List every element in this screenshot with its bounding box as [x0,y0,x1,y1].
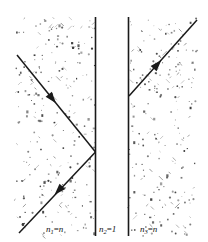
media-labels-group: n1=nn2=1n3=n [46,224,158,235]
speckle-dot [132,167,133,168]
speckle-dot [55,62,56,63]
speckle-dot [90,212,91,213]
speckle-dot [176,225,179,228]
speckle-dot [191,87,192,88]
speckle-dot [162,62,163,63]
speckle-dot [47,180,49,182]
speckle-dot [38,120,40,122]
speckle-dot [51,77,52,78]
speckle-dot [80,52,82,54]
speckle-dot [179,133,180,134]
speckle-dot [144,83,146,85]
speckle-dot [61,76,63,78]
speckle-dot [152,60,154,62]
speckle-dot [31,212,33,214]
speckle-dot [171,32,173,34]
speckle-dot [186,49,187,50]
speckle-dot [73,144,75,145]
speckle-dot [60,165,62,167]
speckle-dot [178,96,180,98]
speckle-dot [159,151,160,152]
speckle-dot [35,25,36,26]
speckle-dot [23,204,26,207]
speckle-dot [49,30,51,31]
speckle-dot [159,176,163,180]
speckle-dot [168,24,169,25]
speckle-dot [66,85,67,86]
speckle-dot [66,36,68,38]
speckle-dot [88,96,90,98]
speckle-dot [43,236,46,239]
speckle-dot [35,112,36,113]
speckle-dot [165,204,166,205]
speckle-dot [180,63,182,65]
speckle-dot [188,135,190,137]
diagram-canvas: n1=nn2=1n3=n [0,0,208,242]
speckle-dot [135,213,136,214]
speckle-dot [56,171,58,174]
speckle-dot [24,212,25,213]
speckle-dot [151,206,154,209]
speckle-dot [68,26,72,30]
speckle-dot [171,202,173,204]
speckle-dot [194,163,195,164]
speckle-dot [38,32,41,35]
speckle-dot [173,157,176,160]
speckle-dot [133,107,134,108]
speckle-dot [184,231,186,233]
speckle-dot [189,223,191,225]
speckle-dot [144,214,145,215]
speckle-dot [69,111,70,112]
speckle-dot [24,18,25,19]
speckle-dot [142,139,143,141]
speckle-dot [71,42,73,44]
speckle-dot [176,101,177,102]
speckle-dot [73,141,74,142]
speckle-dot [31,100,32,101]
speckle-dot [73,81,74,82]
speckle-dot [93,147,94,148]
speckle-dot [171,231,172,233]
speckle-dot [177,199,179,201]
speckle-dot [78,42,79,43]
speckle-dot [93,128,95,130]
speckle-dot [40,120,42,122]
speckle-dot [132,49,134,51]
speckle-dot [23,196,24,198]
speckle-dot [91,81,92,82]
speckle-dot [161,50,162,51]
speckle-dot [56,76,60,80]
speckle-dot [169,196,171,198]
speckle-dot [62,184,63,185]
speckle-dot [40,149,42,150]
speckle-dot [153,192,154,193]
speckle-dot [30,76,32,78]
speckle-dot [143,40,144,41]
speckle-dot [53,139,56,142]
speckle-dot [162,207,163,208]
speckle-dot [17,121,19,123]
speckle-dot [29,174,31,176]
speckle-dot [38,66,40,68]
speckle-dot [131,230,132,231]
speckle-dot [33,103,35,105]
speckle-dot [191,82,192,83]
speckle-dot [159,221,160,222]
speckle-dot [154,38,156,40]
light-rays-group [17,20,197,233]
speckle-dot [147,132,149,134]
speckle-dot [141,51,142,52]
speckle-dot [145,113,146,114]
speckle-dot [36,165,39,168]
speckle-dot [190,202,191,203]
speckle-dot [26,162,27,163]
speckle-dot [147,103,148,104]
speckle-dot [78,136,80,138]
speckle-dot [90,201,92,202]
speckle-dot [70,105,71,106]
speckle-dot [73,192,74,193]
speckle-dot [140,87,141,88]
speckle-dot [45,216,46,217]
speckle-dot [53,17,54,18]
speckle-dot [16,180,18,182]
